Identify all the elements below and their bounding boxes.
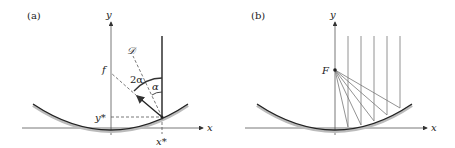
angle-alpha-arc	[152, 92, 162, 95]
x-star-label: x*	[156, 136, 167, 147]
y-axis-label: y	[105, 9, 112, 20]
alpha-label: α	[152, 81, 159, 92]
F-label: F	[321, 65, 330, 76]
x-axis-label: x	[207, 122, 213, 133]
panel-a-label: (a)	[27, 10, 41, 21]
parabola-figure: (a) x y f 𝒟 2α α y* x* (b) x y	[0, 0, 455, 148]
two-alpha-label: 2α	[130, 74, 143, 85]
reflected-ray	[137, 96, 162, 117]
parabola	[257, 104, 412, 130]
y-star-label: y*	[94, 112, 106, 123]
parabola	[33, 104, 188, 130]
D-label: 𝒟	[127, 45, 137, 56]
f-label: f	[101, 64, 108, 75]
panel-b: (b) x y F	[245, 9, 437, 135]
panel-b-label: (b)	[251, 10, 265, 21]
y-axis-label: y	[329, 9, 336, 20]
panel-a: (a) x y f 𝒟 2α α y* x*	[22, 9, 213, 147]
x-axis-label: x	[431, 122, 437, 133]
parallel-rays	[335, 36, 400, 127]
focus-point	[333, 68, 337, 72]
